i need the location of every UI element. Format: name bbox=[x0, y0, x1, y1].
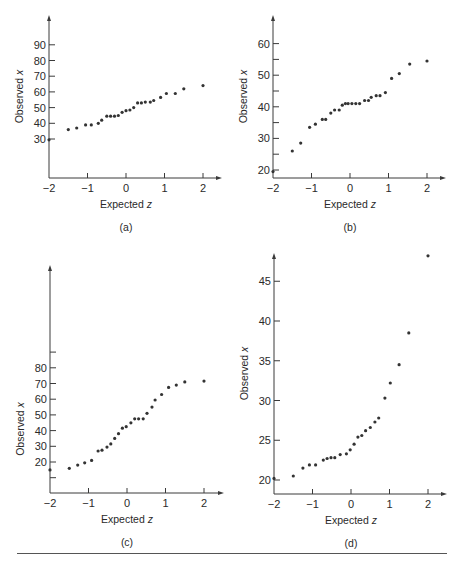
data-point bbox=[105, 446, 108, 449]
x-tick-label: 1 bbox=[385, 182, 391, 194]
data-point bbox=[408, 63, 411, 66]
data-point bbox=[338, 108, 341, 111]
x-tick-label: −2 bbox=[43, 182, 56, 194]
y-tick-label: 80 bbox=[34, 55, 46, 67]
y-tick-label: 60 bbox=[35, 393, 47, 405]
data-point bbox=[121, 427, 124, 430]
data-point bbox=[322, 459, 325, 462]
y-tick-label: 60 bbox=[34, 86, 46, 98]
data-point bbox=[354, 102, 357, 105]
y-tick-label: 40 bbox=[259, 315, 271, 327]
data-point bbox=[75, 126, 78, 129]
data-point bbox=[165, 92, 168, 95]
y-axis-arrow-icon bbox=[272, 253, 276, 259]
y-tick-label: 20 bbox=[258, 164, 270, 176]
data-point bbox=[378, 94, 381, 97]
data-point bbox=[174, 92, 177, 95]
data-point bbox=[117, 432, 120, 435]
panel-caption: (c) bbox=[121, 536, 133, 548]
y-tick-label: 70 bbox=[35, 378, 47, 390]
data-point bbox=[373, 420, 376, 423]
data-point bbox=[364, 429, 367, 432]
data-point bbox=[47, 138, 50, 141]
y-tick-label: 40 bbox=[34, 117, 46, 129]
data-point bbox=[350, 102, 353, 105]
x-tick-label: −2 bbox=[267, 182, 280, 194]
y-tick-label: 25 bbox=[259, 434, 271, 446]
data-point bbox=[124, 109, 127, 112]
x-axis-label: Expected z bbox=[100, 198, 153, 210]
y-tick-label: 40 bbox=[35, 425, 47, 437]
y-axis-arrow-icon bbox=[47, 15, 51, 21]
data-point bbox=[384, 91, 387, 94]
data-point bbox=[398, 72, 401, 75]
panel-a: −2−101230405060708090Expected zObserved … bbox=[13, 15, 222, 233]
data-point bbox=[90, 123, 93, 126]
data-point bbox=[142, 417, 145, 420]
data-point bbox=[375, 94, 378, 97]
data-point bbox=[97, 122, 100, 125]
x-axis-arrow-icon bbox=[218, 491, 224, 495]
data-point bbox=[159, 96, 162, 99]
data-point bbox=[363, 99, 366, 102]
x-tick-label: −1 bbox=[82, 497, 95, 509]
panel-c: −2−101220304050607080Expected zObserved … bbox=[14, 265, 224, 548]
data-point bbox=[292, 474, 295, 477]
data-point bbox=[389, 381, 392, 384]
data-point bbox=[117, 114, 120, 117]
x-tick-label: 0 bbox=[124, 497, 130, 509]
y-tick-label: 50 bbox=[35, 409, 47, 421]
y-tick-label: 30 bbox=[34, 133, 46, 145]
data-point bbox=[97, 449, 100, 452]
x-tick-label: −2 bbox=[44, 497, 57, 509]
data-point bbox=[301, 467, 304, 470]
data-point bbox=[345, 452, 348, 455]
y-tick-label: 90 bbox=[34, 39, 46, 51]
data-point bbox=[144, 101, 147, 104]
x-tick-label: 1 bbox=[386, 498, 392, 510]
data-point bbox=[140, 101, 143, 104]
y-axis-arrow-icon bbox=[271, 15, 275, 21]
data-point bbox=[314, 123, 317, 126]
y-tick-label: 30 bbox=[258, 132, 270, 144]
data-point bbox=[48, 468, 51, 471]
data-point bbox=[321, 118, 324, 121]
data-point bbox=[105, 115, 108, 118]
data-point bbox=[349, 448, 352, 451]
data-point bbox=[145, 412, 148, 415]
y-tick-label: 35 bbox=[259, 355, 271, 367]
data-point bbox=[167, 386, 170, 389]
y-tick-label: 50 bbox=[258, 69, 270, 81]
y-tick-label: 40 bbox=[258, 101, 270, 113]
x-tick-label: 0 bbox=[123, 182, 129, 194]
y-axis-arrow-icon bbox=[48, 265, 52, 271]
y-tick-label: 70 bbox=[34, 70, 46, 82]
x-tick-label: −2 bbox=[268, 498, 281, 510]
data-point bbox=[347, 102, 350, 105]
data-point bbox=[152, 99, 155, 102]
y-tick-label: 30 bbox=[35, 440, 47, 452]
data-point bbox=[360, 434, 363, 437]
data-point bbox=[370, 96, 373, 99]
data-point bbox=[324, 118, 327, 121]
y-axis-label: Observed x bbox=[14, 401, 26, 455]
data-point bbox=[299, 142, 302, 145]
x-tick-label: 2 bbox=[200, 182, 206, 194]
y-axis-label: Observed x bbox=[237, 69, 249, 123]
data-point bbox=[128, 108, 131, 111]
data-point bbox=[271, 170, 274, 173]
y-tick-label: 80 bbox=[35, 362, 47, 374]
data-point bbox=[308, 126, 311, 129]
data-point bbox=[326, 457, 329, 460]
data-point bbox=[407, 331, 410, 334]
data-point bbox=[329, 112, 332, 115]
data-point bbox=[314, 463, 317, 466]
x-axis-arrow-icon bbox=[216, 176, 222, 180]
x-axis-arrow-icon bbox=[440, 176, 446, 180]
data-point bbox=[383, 397, 386, 400]
x-tick-label: 2 bbox=[424, 182, 430, 194]
x-tick-label: 1 bbox=[161, 182, 167, 194]
data-point bbox=[272, 477, 275, 480]
data-point bbox=[202, 380, 205, 383]
data-point bbox=[356, 436, 359, 439]
